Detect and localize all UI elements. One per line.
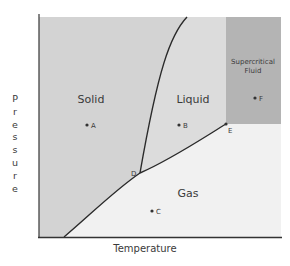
- point-e-label: E: [228, 127, 232, 135]
- y-label-letter: e: [9, 183, 21, 196]
- gas-label: Gas: [178, 187, 199, 200]
- point-f-label: F: [259, 95, 263, 103]
- point-a-label: A: [91, 122, 96, 130]
- point-d-label: D: [131, 170, 136, 178]
- point-b-marker: [177, 123, 180, 126]
- x-axis-label: Temperature: [0, 243, 290, 254]
- point-c-label: C: [156, 208, 161, 216]
- solid-label: Solid: [78, 93, 105, 106]
- point-f-marker: [253, 96, 256, 99]
- y-label-letter: s: [9, 131, 21, 144]
- supercritical-label-line1: Supercritical: [231, 58, 275, 66]
- point-b-label: B: [183, 122, 188, 130]
- point-c-marker: [150, 209, 153, 212]
- y-label-letter: s: [9, 144, 21, 157]
- y-label-letter: e: [9, 119, 21, 132]
- y-label-letter: r: [9, 170, 21, 183]
- y-label-letter: u: [9, 157, 21, 170]
- y-axis-label: P r e s s u r e: [9, 93, 21, 195]
- phase-diagram: Solid Liquid Gas Supercritical Fluid A B…: [0, 0, 290, 266]
- liquid-label: Liquid: [176, 93, 209, 106]
- point-e-marker: [224, 122, 227, 125]
- y-label-letter: r: [9, 106, 21, 119]
- point-a-marker: [85, 123, 88, 126]
- supercritical-label-line2: Fluid: [245, 67, 262, 75]
- y-label-letter: P: [9, 93, 21, 106]
